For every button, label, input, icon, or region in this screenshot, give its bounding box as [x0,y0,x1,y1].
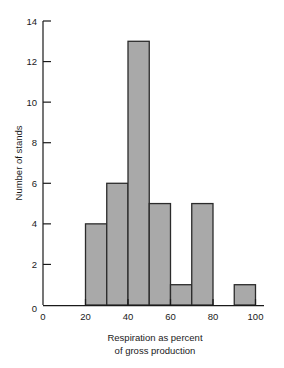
x-axis-title-line2: of gross production [115,345,196,356]
y-tick-label-0: 0 [32,303,37,314]
bar-50-60 [149,204,170,305]
x-tick-label-60: 60 [165,311,176,322]
y-tick-label-14: 14 [26,16,37,27]
histogram-figure: 02468101214 020406080100 Number of stand… [0,0,284,368]
bar-20-30 [86,224,107,305]
bar-30-40 [107,183,128,305]
y-tick-label-4: 4 [32,218,37,229]
x-tick-label-20: 20 [80,311,91,322]
bar-40-50 [128,41,149,305]
x-tick-label-100: 100 [248,311,264,322]
chart-svg: 02468101214 020406080100 Number of stand… [0,0,284,368]
y-tick-label-10: 10 [26,97,37,108]
y-tick-label-6: 6 [32,178,37,189]
y-tick-label-2: 2 [32,259,37,270]
x-tick-label-0: 0 [40,311,45,322]
bar-70-80 [192,204,213,305]
bar-60-70 [171,285,192,305]
y-axis-title: Number of stands [13,125,24,200]
bar-90-100 [234,285,255,305]
x-axis-title-line1: Respiration as percent [107,332,202,343]
x-tick-label-40: 40 [123,311,134,322]
y-tick-label-12: 12 [26,56,37,67]
x-tick-label-80: 80 [208,311,219,322]
y-tick-label-8: 8 [32,137,37,148]
